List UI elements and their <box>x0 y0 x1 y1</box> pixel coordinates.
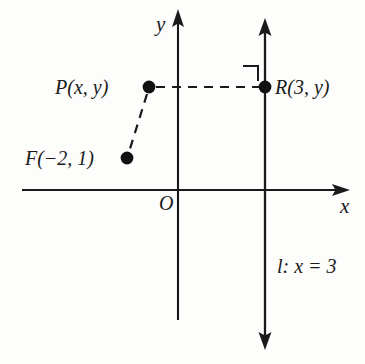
line-l-label: l: x = 3 <box>277 256 337 276</box>
point-F-dot <box>121 152 134 165</box>
diagram-canvas <box>0 0 365 364</box>
y-axis-label: y <box>156 14 165 35</box>
point-F-label: F(−2, 1) <box>25 148 94 168</box>
x-axis-label: x <box>340 196 349 217</box>
segment-p-to-f <box>129 94 147 152</box>
geometry-figure: y x O P(x, y) R(3, y) F(−2, 1) l: x = 3 <box>0 0 365 364</box>
right-angle-marker <box>243 66 258 81</box>
point-R-dot <box>259 81 272 94</box>
point-P-dot <box>143 81 156 94</box>
origin-label: O <box>159 193 173 213</box>
point-P-label: P(x, y) <box>55 77 108 97</box>
point-R-label: R(3, y) <box>275 77 329 97</box>
